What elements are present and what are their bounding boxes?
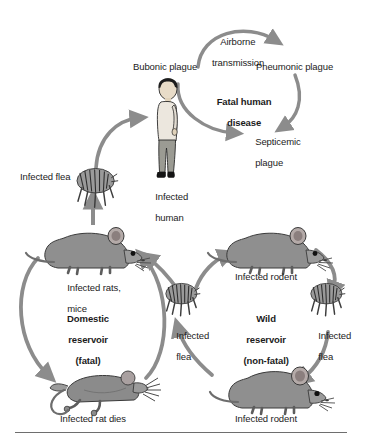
- flea-icon: [311, 283, 345, 315]
- septicemic-plague-label: Septicemic plague: [245, 126, 301, 179]
- arrow-pneumonic-to-septicemic: [283, 75, 299, 127]
- septicemic-line2: plague: [255, 157, 283, 168]
- domestic-line1: Domestic: [67, 313, 109, 324]
- arrow-wild-top-to-rightflea: [316, 250, 335, 290]
- rat-icon: [26, 228, 151, 275]
- dead-rat-icon: [50, 371, 161, 416]
- rats-line1: Infected rats,: [67, 282, 121, 293]
- flea-icon: [166, 283, 200, 315]
- airborne-line1: Airborne: [220, 36, 255, 47]
- wild-line3: (non-fatal): [243, 355, 288, 366]
- center-flea-line2: flea: [176, 351, 191, 362]
- center-flea-line1: Infected: [176, 330, 209, 341]
- arrow-flea-to-human: [96, 118, 138, 168]
- right-flea-line2: flea: [318, 351, 333, 362]
- infected-flea-label: Infected flea: [20, 172, 70, 183]
- bubonic-plague-label: Bubonic plague: [133, 62, 197, 73]
- wild-reservoir-title: Wild reservoir (non-fatal): [219, 303, 303, 377]
- wild-line2: reservoir: [246, 334, 286, 345]
- flea-icon: [77, 168, 118, 207]
- septicemic-line1: Septicemic: [255, 136, 300, 147]
- domestic-line2: reservoir: [68, 334, 108, 345]
- arrow-center-flea-to-rats: [148, 258, 178, 290]
- infected-rat-dies-label: Infected rat dies: [38, 414, 148, 425]
- bottom-divider: [15, 432, 347, 433]
- infected-human-line1: Infected: [155, 191, 188, 202]
- domestic-reservoir-title: Domestic reservoir (fatal): [37, 303, 129, 377]
- wild-bottom-rodent-label: Infected rodent: [218, 414, 314, 425]
- wild-line1: Wild: [256, 313, 276, 324]
- fatal-line1: Fatal human: [217, 96, 272, 107]
- rodent-icon: [208, 228, 333, 275]
- human-figure-icon: [157, 79, 178, 178]
- arrow-domestic-right: [143, 257, 164, 378]
- right-flea-line1: Infected: [318, 330, 351, 341]
- plague-cycle-diagram: Airborne transmission Bubonic plague Pne…: [0, 0, 365, 441]
- pneumonic-plague-label: Pneumonic plague: [256, 62, 333, 73]
- infected-human-label: Infected human: [145, 181, 188, 234]
- center-infected-flea-label: Infected flea: [166, 320, 209, 373]
- wild-top-rodent-label: Infected rodent: [218, 272, 314, 283]
- right-infected-flea-label: Infected flea: [308, 320, 351, 373]
- infected-human-line2: human: [155, 212, 184, 223]
- domestic-line3: (fatal): [76, 355, 101, 366]
